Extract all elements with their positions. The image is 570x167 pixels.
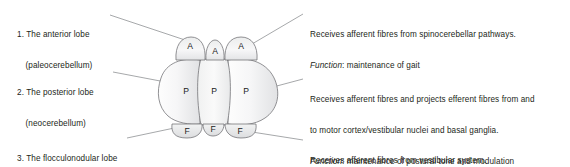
label-flocculonodular-text: The flocculonodular lobe: [26, 154, 117, 163]
posterior-letter-right: P: [243, 86, 249, 96]
anterior-letter-vermis: A: [212, 46, 218, 56]
posterior-lobe-left: [158, 59, 200, 124]
note-flocculonodular-line1: Receives afferent fibres from vestibular…: [310, 156, 486, 166]
note-posterior-line1: Receives afferent fibres and projects ef…: [310, 95, 535, 105]
note-anterior-function-text: maintenance of gait: [347, 61, 420, 70]
note-anterior-function-label: Function: [310, 61, 342, 70]
note-anterior-function: Function: maintenance of gait: [310, 61, 516, 71]
label-posterior-line2: (neocerebellum): [17, 119, 94, 129]
label-anterior-number: 1.: [17, 30, 24, 39]
note-anterior-line1: Receives afferent fibres from spinocereb…: [310, 30, 516, 40]
label-anterior-text: The anterior lobe: [26, 30, 89, 39]
label-posterior-line1: 2. The posterior lobe: [17, 88, 94, 98]
leader-line-anterior: [110, 15, 188, 41]
posterior-lobe-right: [228, 59, 278, 125]
flocculonodular-letter-right: F: [237, 126, 242, 136]
label-anterior-line1: 1. The anterior lobe: [17, 30, 92, 40]
posterior-letter-vermis: P: [211, 86, 217, 96]
label-posterior-text: The posterior lobe: [26, 88, 93, 97]
note-flocculonodular: Receives afferent fibres from vestibular…: [310, 135, 486, 167]
leader-line-note-anterior: [252, 14, 303, 44]
label-flocculonodular-number: 3.: [17, 154, 24, 163]
anterior-letter-left: A: [187, 41, 193, 51]
leader-line-note-flocculonodular: [252, 132, 303, 140]
flocculonodular-letter-left: F: [184, 126, 189, 136]
anterior-letter-right: A: [238, 41, 244, 51]
label-flocculonodular-lobe: 3. The flocculonodular lobe (archicerebe…: [17, 133, 117, 167]
label-posterior-number: 2.: [17, 88, 24, 97]
leader-line-flocculonodular: [127, 127, 179, 138]
cerebellum-lobes-figure: A A A P P P F F F 1. The anterior lobe (…: [0, 0, 570, 167]
posterior-letter-left: P: [183, 86, 189, 96]
label-flocculonodular-line1: 3. The flocculonodular lobe: [17, 154, 117, 164]
flocculonodular-letter-vermis: F: [210, 124, 215, 134]
